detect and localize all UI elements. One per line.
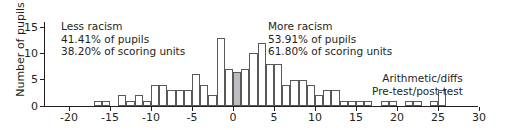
histogram-bar xyxy=(282,85,290,106)
legend-line-arithmetic-diffs: Arithmetic/diffs xyxy=(372,72,463,85)
histogram-bar xyxy=(118,95,126,106)
x-tick-label-15: 15 xyxy=(336,112,376,124)
y-tick-label-10: 10 xyxy=(16,48,38,59)
histogram-bar xyxy=(323,90,331,106)
y-tick-10 xyxy=(40,53,44,54)
histogram-bar xyxy=(192,74,200,106)
x-tick-label-10: 10 xyxy=(295,112,335,124)
histogram-bar xyxy=(94,101,102,106)
x-tick-label--15: -15 xyxy=(90,112,130,124)
histogram-bar xyxy=(258,43,266,106)
y-tick-label-15: 15 xyxy=(16,22,38,33)
x-tick-label-25: 25 xyxy=(418,112,458,124)
histogram-bar xyxy=(340,101,348,106)
annotation-more-racism-units: 61.80% of scoring units xyxy=(268,45,392,58)
histogram-bar xyxy=(126,101,134,106)
histogram-bar xyxy=(389,101,397,106)
x-tick-label--5: -5 xyxy=(172,112,212,124)
x-tick-label--10: -10 xyxy=(131,112,171,124)
annotation-less-racism-units: 38.20% of scoring units xyxy=(61,45,185,58)
histogram-bar xyxy=(233,72,241,106)
y-axis-line xyxy=(44,22,45,106)
histogram-bar xyxy=(266,64,274,106)
histogram-bar xyxy=(102,101,110,106)
histogram-bar xyxy=(167,90,175,106)
histogram-bar xyxy=(241,69,249,106)
histogram-bar xyxy=(151,85,159,106)
y-tick-label-5: 5 xyxy=(16,74,38,85)
histogram-bar xyxy=(315,95,323,106)
legend-line-pretest-posttest: Pre-test/post-test xyxy=(372,85,463,98)
histogram-bar xyxy=(381,101,389,106)
x-tick-label-30: 30 xyxy=(459,112,499,124)
histogram-bar xyxy=(159,85,167,106)
x-tick-label-20: 20 xyxy=(377,112,417,124)
histogram-bar xyxy=(348,101,356,106)
histogram-figure: Number of pupils 15 10 5 0 -20 -15 -10 -… xyxy=(0,0,505,130)
y-tick-15 xyxy=(40,27,44,28)
annotation-less-racism-heading: Less racism xyxy=(61,20,185,33)
annotation-more-racism-heading: More racism xyxy=(268,20,392,33)
y-tick-5 xyxy=(40,79,44,80)
histogram-bar xyxy=(405,101,413,106)
histogram-bar xyxy=(364,101,372,106)
y-tick-label-0: 0 xyxy=(16,101,38,112)
histogram-bar xyxy=(331,90,339,106)
x-tick-label-0: 0 xyxy=(213,112,253,124)
annotation-less-racism: Less racism 41.41% of pupils 38.20% of s… xyxy=(61,20,185,58)
histogram-bar xyxy=(274,64,282,106)
chart-legend: Arithmetic/diffs Pre-test/post-test xyxy=(372,72,463,97)
histogram-bar xyxy=(176,90,184,106)
histogram-bar xyxy=(413,101,421,106)
histogram-bar xyxy=(143,101,151,106)
x-tick-label-5: 5 xyxy=(254,112,294,124)
histogram-bar xyxy=(307,85,315,106)
x-tick-label--20: -20 xyxy=(49,112,89,124)
histogram-bar xyxy=(356,101,364,106)
histogram-bar xyxy=(430,101,438,106)
histogram-bar xyxy=(135,95,143,106)
histogram-bar xyxy=(217,38,225,106)
histogram-bar xyxy=(299,80,307,106)
histogram-bar xyxy=(249,53,257,106)
annotation-more-racism-pupils: 53.91% of pupils xyxy=(268,33,392,46)
histogram-bar xyxy=(184,90,192,106)
annotation-less-racism-pupils: 41.41% of pupils xyxy=(61,33,185,46)
histogram-bar xyxy=(225,69,233,106)
histogram-bar xyxy=(290,80,298,106)
histogram-bar xyxy=(200,85,208,106)
histogram-bar xyxy=(208,95,216,106)
annotation-more-racism: More racism 53.91% of pupils 61.80% of s… xyxy=(268,20,392,58)
